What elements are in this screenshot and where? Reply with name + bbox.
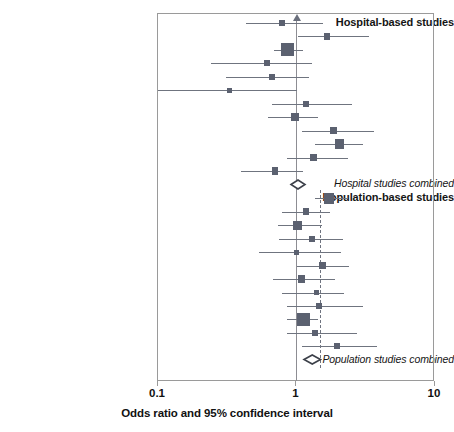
study-effect-marker — [309, 236, 315, 242]
confidence-interval-line — [211, 63, 313, 64]
forest-plot-figure: Hospital-based studies Hospital studies … — [0, 0, 454, 432]
reference-line-or-1 — [296, 19, 297, 381]
study-effect-marker — [291, 113, 299, 121]
confidence-interval-line — [282, 293, 344, 294]
confidence-interval-line — [259, 252, 341, 253]
study-effect-marker — [264, 60, 270, 66]
study-effect-marker — [335, 139, 345, 149]
confidence-interval-line — [302, 131, 373, 132]
confidence-interval-line — [272, 104, 352, 105]
summary-diamond — [302, 353, 323, 366]
study-effect-marker — [281, 43, 293, 56]
study-effect-marker — [316, 303, 322, 309]
up-arrow-icon — [293, 14, 301, 21]
study-effect-marker — [269, 74, 275, 80]
axis-tick — [157, 381, 158, 386]
axis-title: Odds ratio and 95% confidence interval — [0, 407, 454, 419]
study-effect-marker — [303, 208, 310, 215]
plot-area — [157, 13, 434, 381]
confidence-interval-line — [298, 36, 369, 37]
axis-tick — [434, 381, 435, 386]
axis-tick-label: 0.1 — [137, 388, 177, 400]
confidence-interval-line — [287, 333, 358, 334]
summary-diamond — [289, 178, 307, 191]
study-effect-marker — [324, 193, 335, 204]
study-effect-marker — [279, 20, 285, 26]
study-effect-marker — [324, 33, 330, 39]
study-effect-marker — [330, 127, 337, 134]
study-effect-marker — [297, 313, 309, 326]
study-effect-marker — [312, 330, 318, 336]
study-effect-marker — [293, 221, 302, 230]
confidence-interval-line — [226, 77, 309, 78]
study-effect-marker — [334, 343, 340, 349]
study-effect-marker — [303, 101, 309, 107]
study-effect-marker — [319, 262, 326, 269]
axis-tick-label: 1 — [276, 388, 316, 400]
study-effect-marker — [314, 290, 319, 295]
study-effect-marker — [294, 250, 299, 255]
axis-tick — [295, 381, 296, 386]
study-effect-marker — [272, 167, 279, 174]
study-effect-marker — [298, 275, 305, 282]
confidence-interval-line — [287, 306, 363, 307]
study-effect-marker — [310, 154, 317, 161]
axis-tick-label: 10 — [414, 388, 454, 400]
study-effect-marker — [227, 88, 232, 93]
confidence-interval-line — [287, 158, 348, 159]
